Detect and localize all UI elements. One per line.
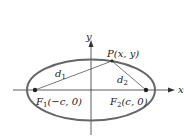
ellipse-diagram: y x P(x, y) d1 d2 F1(−c, 0) F2(c, 0) <box>0 0 184 138</box>
point-p-label: P(x, y) <box>106 48 139 59</box>
x-axis-label: x <box>178 84 184 95</box>
focus-f2-point <box>144 88 148 92</box>
d1-label: d1 <box>55 68 66 81</box>
point-p <box>111 60 114 63</box>
focus-f2-label: F2(c, 0) <box>109 96 148 109</box>
y-axis-label: y <box>85 31 92 42</box>
d1-line <box>35 61 112 90</box>
focus-f1-point <box>33 88 37 92</box>
x-axis-arrow-icon <box>168 88 175 93</box>
d2-label: d2 <box>117 74 128 87</box>
focus-f1-label: F1(−c, 0) <box>35 96 82 109</box>
